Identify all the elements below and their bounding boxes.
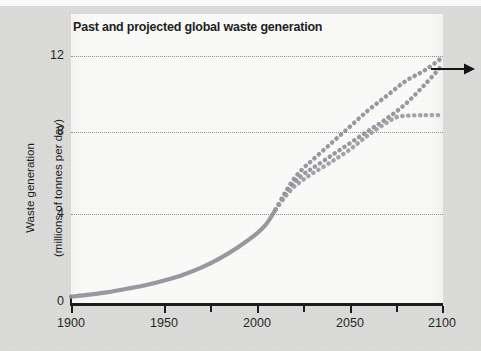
x-tick-label-1900: 1900: [41, 316, 101, 330]
y-axis-title: Waste generation (millions of tonnes per…: [9, 63, 65, 313]
y-tick-label-12: 12: [38, 48, 64, 62]
y-tick-label-0: 0: [38, 294, 64, 308]
x-tick-2100: [442, 306, 444, 313]
x-tick-1975: [210, 306, 212, 312]
continuation-arrow-icon: [430, 58, 476, 80]
figure-container: Past and projected global waste generati…: [0, 0, 481, 351]
x-tick-2000: [257, 306, 259, 313]
x-tick-label-2000: 2000: [227, 316, 287, 330]
series-1: [71, 210, 276, 297]
y-tick-label-4: 4: [38, 206, 64, 220]
x-tick-2025: [303, 306, 305, 312]
chart-plot-area: [71, 14, 443, 305]
x-tick-label-2050: 2050: [320, 316, 380, 330]
x-tick-label-2100: 2100: [412, 316, 472, 330]
series-3: [276, 64, 443, 209]
series-4: [276, 115, 443, 209]
y-tick-label-8: 8: [38, 124, 64, 138]
x-tick-label-1950: 1950: [134, 316, 194, 330]
y-axis-title-line2: (millions of tonnes per day): [52, 119, 64, 257]
x-tick-1900: [71, 306, 73, 313]
x-tick-2075: [396, 306, 398, 312]
x-tick-1950: [164, 306, 166, 313]
series-2: [276, 57, 443, 210]
x-tick-2050: [350, 306, 352, 313]
y-axis-title-line1: Waste generation: [24, 143, 36, 233]
